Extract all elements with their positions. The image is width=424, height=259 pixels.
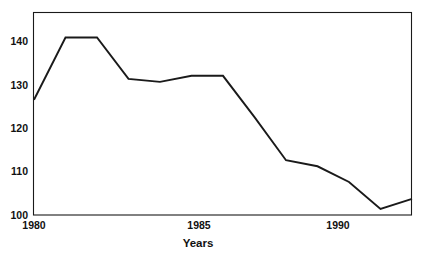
y-tick-label-120: 120 [10, 122, 28, 134]
x-axis-title: Years [183, 237, 214, 249]
chart-canvas: 100 110 120 130 140 1980 1985 1990 Years [0, 0, 424, 259]
y-tick-label-130: 130 [10, 79, 28, 91]
y-tick-label-140: 140 [10, 35, 28, 47]
x-tick-label-1990: 1990 [326, 219, 350, 231]
y-tick-label-110: 110 [11, 165, 28, 177]
data-series-line [34, 38, 412, 209]
x-tick-label-1980: 1980 [22, 219, 46, 231]
x-tick-label-1985: 1985 [187, 219, 211, 231]
line-chart: 100 110 120 130 140 1980 1985 1990 Years [0, 0, 424, 259]
plot-frame [34, 13, 412, 216]
